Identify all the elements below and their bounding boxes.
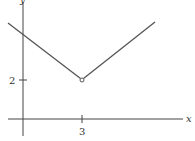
left-segment [8,23,81,79]
graph: y x 3 2 [0,0,195,141]
x-tick-label: 3 [79,126,85,137]
y-tick-label: 2 [9,75,15,86]
y-axis-label: y [19,0,26,5]
open-point [80,78,84,82]
right-segment [84,22,156,79]
x-axis-label: x [186,113,192,124]
